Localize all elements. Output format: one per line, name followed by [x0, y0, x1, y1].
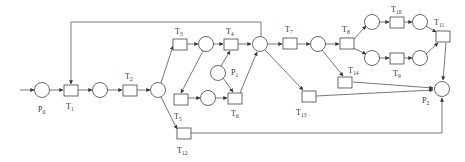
- transition-t10: [390, 17, 404, 28]
- place-pi: [413, 15, 428, 30]
- t1-label: T1: [66, 102, 74, 112]
- arc-t8-ph: [353, 48, 366, 54]
- transition-t14: [338, 77, 352, 88]
- place-p2: [435, 82, 450, 97]
- t12-label: T12: [177, 146, 188, 156]
- t6-label: T6: [231, 109, 239, 119]
- transition-t11: [436, 31, 450, 42]
- place-pf: [311, 37, 326, 52]
- petri-net-diagram: P0P1P2T1T2T3T4T5T6T7T8T9T10T11T12T13T14: [0, 0, 465, 162]
- transition-t8: [340, 38, 354, 49]
- transition-t7: [283, 38, 297, 49]
- place-pd: [253, 37, 268, 52]
- t5-label: T5: [174, 112, 182, 122]
- p2-label: P2: [422, 96, 429, 106]
- arc-p1-t4: [221, 51, 230, 66]
- t4-label: T4: [226, 27, 234, 37]
- place-pe: [201, 91, 216, 106]
- transition-t3: [173, 39, 187, 50]
- t8-label: T8: [342, 25, 350, 35]
- arc-t11-p2: [443, 43, 446, 80]
- places: [35, 15, 450, 106]
- arc-pf-t14: [322, 50, 343, 76]
- transition-t6: [228, 93, 242, 104]
- t11-label: T11: [434, 18, 444, 28]
- t9-label: T9: [393, 69, 401, 79]
- t14-label: T14: [348, 66, 359, 76]
- transitions: [64, 17, 450, 139]
- t10-label: T10: [391, 5, 402, 15]
- transition-t13: [302, 91, 316, 102]
- place-p1: [211, 66, 226, 81]
- t2-label: T2: [125, 72, 133, 82]
- place-pj: [413, 51, 428, 66]
- arc-t6-pd: [240, 52, 257, 93]
- arc-pc-t5: [181, 51, 203, 93]
- t7-label: T7: [285, 25, 293, 35]
- place-ph: [365, 51, 380, 66]
- arc-p1-t6: [223, 78, 233, 92]
- arc-t8-pg: [353, 26, 366, 40]
- transition-t4: [224, 39, 238, 50]
- transition-t1: [64, 85, 78, 96]
- t13-label: T13: [296, 108, 307, 118]
- arc-pb-t3: [161, 46, 173, 83]
- place-p0: [35, 83, 50, 98]
- place-pc: [199, 37, 214, 52]
- arc-t14-p2: [353, 82, 433, 88]
- transition-t9: [390, 53, 404, 64]
- p0-label: P0: [38, 105, 45, 115]
- place-pg: [365, 15, 380, 30]
- p1-label: P1: [231, 68, 238, 78]
- arc-pj-t11: [426, 43, 438, 54]
- arc-t13-p2: [316, 90, 433, 96]
- transition-t5: [174, 94, 188, 105]
- place-pb: [151, 83, 166, 98]
- arc-pd-t13: [265, 50, 303, 90]
- transition-t2: [123, 85, 137, 96]
- transition-t12: [177, 128, 191, 139]
- t3-label: T3: [175, 27, 183, 37]
- place-pa: [93, 83, 108, 98]
